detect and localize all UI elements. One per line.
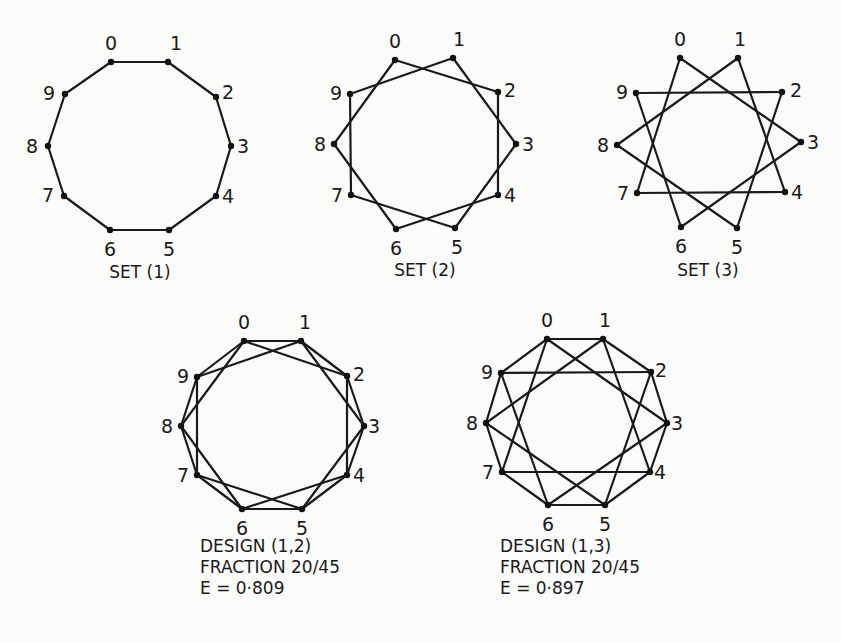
vertex-9 — [194, 374, 200, 380]
vertex-label: 7 — [482, 461, 494, 483]
vertex-3 — [361, 423, 367, 429]
figure-caption: SET (1) — [109, 262, 170, 282]
vertex-7 — [194, 472, 200, 478]
vertex-8 — [45, 143, 51, 149]
vertex-6 — [107, 227, 113, 233]
edge-9-1 — [197, 341, 301, 377]
vertex-label: 0 — [238, 311, 250, 333]
figure-design12: 0123456789DESIGN (1,2)FRACTION 20/45E = … — [161, 311, 380, 598]
design-diagram: 0123456789SET (1)0123456789SET (2)012345… — [0, 0, 841, 643]
edge-6-7 — [64, 196, 110, 230]
vertex-6 — [393, 226, 399, 232]
vertex-label: 4 — [222, 185, 234, 207]
vertex-2 — [779, 89, 785, 95]
vertex-3 — [513, 141, 519, 147]
vertex-label: 5 — [731, 236, 743, 258]
vertex-label: 9 — [481, 361, 493, 383]
vertex-6 — [545, 502, 551, 508]
edge-9-2 — [636, 92, 782, 93]
vertex-label: 8 — [26, 135, 38, 157]
vertex-7 — [61, 193, 67, 199]
vertex-label: 1 — [734, 28, 746, 50]
edge-1-3 — [453, 58, 516, 144]
edge-5-7 — [351, 195, 455, 228]
edge-9-2 — [501, 372, 651, 373]
edge-0-3 — [680, 58, 801, 142]
vertex-label: 3 — [671, 412, 683, 434]
vertex-label: 8 — [161, 415, 173, 437]
vertex-6 — [678, 224, 684, 230]
vertex-5 — [734, 225, 740, 231]
edge-8-1 — [617, 58, 738, 145]
edge-9-1 — [350, 58, 453, 94]
vertex-label: 5 — [451, 236, 463, 258]
vertex-2 — [495, 89, 501, 95]
vertex-label: 2 — [222, 81, 234, 103]
figure-caption: E = 0·809 — [200, 578, 284, 598]
vertex-label: 3 — [368, 415, 380, 437]
figure-caption: DESIGN (1,3) — [500, 536, 611, 556]
edge-1-2 — [603, 339, 651, 372]
vertex-label: 5 — [599, 513, 611, 535]
vertex-8 — [331, 141, 337, 147]
vertex-9 — [633, 90, 639, 96]
vertex-1 — [735, 55, 741, 61]
vertex-label: 0 — [674, 28, 686, 50]
vertex-4 — [782, 189, 788, 195]
edge-6-8 — [181, 426, 242, 509]
vertex-label: 6 — [675, 235, 687, 257]
vertex-label: 9 — [43, 82, 55, 104]
vertex-label: 2 — [655, 359, 667, 381]
edge-0-2 — [395, 60, 498, 92]
edge-9-0 — [65, 62, 111, 94]
vertex-label: 5 — [163, 238, 175, 260]
vertex-label: 8 — [466, 412, 478, 434]
vertex-label: 1 — [170, 32, 182, 54]
vertex-label: 7 — [617, 182, 629, 204]
edge-4-5 — [169, 196, 216, 230]
vertex-label: 4 — [654, 461, 666, 483]
edge-0-2 — [244, 341, 347, 376]
vertex-3 — [798, 139, 804, 145]
vertex-4 — [344, 472, 350, 478]
vertex-8 — [483, 420, 489, 426]
figure-caption: E = 0·897 — [500, 578, 584, 598]
vertex-label: 1 — [299, 311, 311, 333]
vertex-label: 4 — [504, 184, 516, 206]
edge-4-6 — [396, 195, 498, 229]
vertex-5 — [299, 506, 305, 512]
vertex-0 — [241, 338, 247, 344]
edge-3-6 — [548, 423, 667, 505]
vertex-label: 3 — [807, 131, 819, 153]
vertex-8 — [614, 142, 620, 148]
vertex-label: 4 — [791, 181, 803, 203]
figure-caption: SET (2) — [394, 260, 455, 280]
figure-caption: FRACTION 20/45 — [200, 557, 340, 577]
vertex-0 — [392, 57, 398, 63]
vertex-label: 1 — [599, 309, 611, 331]
vertex-5 — [602, 502, 608, 508]
vertex-4 — [647, 469, 653, 475]
vertex-8 — [178, 423, 184, 429]
figure-caption: FRACTION 20/45 — [500, 557, 640, 577]
vertex-1 — [165, 59, 171, 65]
figure-design13: 0123456789DESIGN (1,3)FRACTION 20/45E = … — [466, 309, 683, 598]
vertex-1 — [600, 336, 606, 342]
vertex-3 — [664, 420, 670, 426]
vertex-0 — [544, 336, 550, 342]
vertex-7 — [634, 190, 640, 196]
vertex-label: 2 — [790, 79, 802, 101]
vertex-label: 6 — [390, 237, 402, 259]
figure-caption: DESIGN (1,2) — [200, 536, 311, 556]
edge-8-0 — [181, 341, 244, 426]
vertex-5 — [452, 225, 458, 231]
vertex-4 — [213, 193, 219, 199]
vertex-5 — [166, 227, 172, 233]
vertex-label: 7 — [42, 184, 54, 206]
vertex-9 — [498, 370, 504, 376]
vertex-1 — [298, 338, 304, 344]
figure-caption: SET (3) — [677, 260, 738, 280]
edge-2-3 — [216, 97, 231, 146]
vertex-label: 2 — [504, 79, 516, 101]
vertex-9 — [62, 91, 68, 97]
